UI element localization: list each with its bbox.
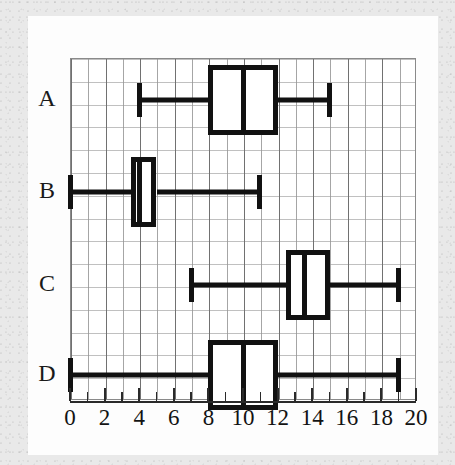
whisker-lower-d xyxy=(70,373,208,378)
x-axis-label-14: 14 xyxy=(301,406,324,429)
x-axis-tick-11 xyxy=(260,392,262,401)
x-axis-tick-12 xyxy=(277,388,279,401)
x-axis-tick-14 xyxy=(311,388,313,401)
x-axis-tick-6 xyxy=(173,388,175,401)
median-line-b xyxy=(137,157,142,227)
x-axis-tick-7 xyxy=(190,392,192,401)
x-axis-tick-0 xyxy=(69,388,71,401)
x-axis-tick-15 xyxy=(329,392,331,401)
boxplot-d xyxy=(0,335,455,415)
whisker-lower-a xyxy=(139,98,208,103)
x-axis-label-12: 12 xyxy=(266,406,289,429)
x-axis-line xyxy=(70,401,416,403)
x-axis-tick-13 xyxy=(294,392,296,401)
median-line-c xyxy=(302,250,307,320)
whisker-cap-max-b xyxy=(257,175,262,209)
x-axis-tick-8 xyxy=(207,388,209,401)
boxplot-b xyxy=(0,152,455,232)
whisker-upper-a xyxy=(278,98,330,103)
x-axis-tick-9 xyxy=(225,392,227,401)
whisker-lower-b xyxy=(70,190,131,195)
box-iqr-c xyxy=(286,250,329,320)
x-axis-label-8: 8 xyxy=(203,406,215,429)
x-axis-label-10: 10 xyxy=(232,406,255,429)
x-axis-label-18: 18 xyxy=(370,406,393,429)
box-iqr-b xyxy=(131,157,157,227)
x-axis-tick-18 xyxy=(380,388,382,401)
x-axis-label-0: 0 xyxy=(64,406,76,429)
whisker-upper-b xyxy=(157,190,261,195)
x-axis-tick-4 xyxy=(138,388,140,401)
whisker-cap-min-d xyxy=(68,358,73,392)
whisker-cap-min-b xyxy=(68,175,73,209)
whisker-cap-min-c xyxy=(189,268,194,302)
x-axis-label-4: 4 xyxy=(133,406,145,429)
whisker-upper-d xyxy=(278,373,399,378)
x-axis-label-6: 6 xyxy=(168,406,180,429)
whisker-upper-c xyxy=(330,283,399,288)
boxplot-screenshot: ABCD 02468101214161820 xyxy=(0,0,455,465)
x-axis-tick-20 xyxy=(415,388,417,401)
boxplot-figure: ABCD 02468101214161820 xyxy=(0,0,455,465)
x-axis-tick-19 xyxy=(398,392,400,401)
x-axis-tick-3 xyxy=(121,392,123,401)
x-axis-label-16: 16 xyxy=(335,406,358,429)
x-axis-tick-1 xyxy=(87,392,89,401)
x-axis-tick-16 xyxy=(346,388,348,401)
whisker-cap-max-d xyxy=(396,358,401,392)
whisker-cap-min-a xyxy=(137,83,142,117)
x-axis-label-20: 20 xyxy=(405,406,428,429)
x-axis-tick-5 xyxy=(156,392,158,401)
median-line-a xyxy=(241,65,246,135)
x-axis-tick-17 xyxy=(363,392,365,401)
x-axis-tick-2 xyxy=(104,388,106,401)
boxplot-a xyxy=(0,60,455,140)
whisker-cap-max-c xyxy=(396,268,401,302)
x-axis-tick-10 xyxy=(242,388,244,401)
x-axis-label-2: 2 xyxy=(99,406,111,429)
boxplot-c xyxy=(0,245,455,325)
whisker-cap-max-a xyxy=(327,83,332,117)
whisker-lower-c xyxy=(191,283,286,288)
